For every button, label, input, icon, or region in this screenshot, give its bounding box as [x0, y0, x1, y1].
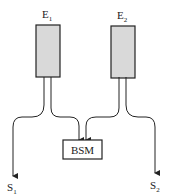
- emitter-e1-label: E1: [42, 8, 53, 23]
- path-e2-to-s2: [126, 77, 155, 173]
- bsm-label: BSM: [71, 144, 94, 156]
- output-s2-label: S2: [150, 179, 160, 194]
- diagram-canvas: E1 E2 BSM S1 S2: [0, 0, 174, 196]
- emitter-e1: E1: [36, 8, 60, 77]
- emitter-e2-box: [111, 26, 135, 78]
- path-e1-to-bsm: [51, 77, 79, 140]
- bsm-module: BSM: [63, 140, 102, 159]
- emitter-e1-box: [36, 25, 60, 77]
- path-e1-to-s1: [13, 77, 44, 176]
- emitter-e2-label: E2: [117, 9, 128, 24]
- path-e2-to-bsm: [86, 77, 119, 140]
- emitter-e2: E2: [111, 9, 135, 78]
- output-s1-label: S1: [7, 181, 17, 196]
